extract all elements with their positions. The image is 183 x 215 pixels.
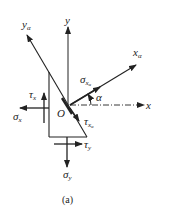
y-alpha-label: yα [21,18,31,32]
alpha-label: α [96,91,102,103]
x-alpha-label: xα [132,46,142,60]
origin-label: O [57,107,65,119]
sigma-x-label: σx [13,110,22,124]
tau-x-alpha-label: τxα [84,115,94,129]
alpha-arc-icon [88,94,91,105]
sigma-y-label: σy [63,168,72,182]
stress-element-diagram: y x yα xα O α σxα τxα τx σx τy σy (a) [0,0,183,215]
tau-x-label: τx [29,88,37,102]
tau-y-label: τy [84,138,92,152]
y-axis-label: y [64,14,70,26]
tau-x-alpha-arrow [70,108,79,121]
sigma-x-alpha-label: σxα [80,73,92,87]
y-alpha-axis [27,35,87,137]
figure-caption: (a) [62,194,73,206]
x-axis-label: x [145,99,151,111]
